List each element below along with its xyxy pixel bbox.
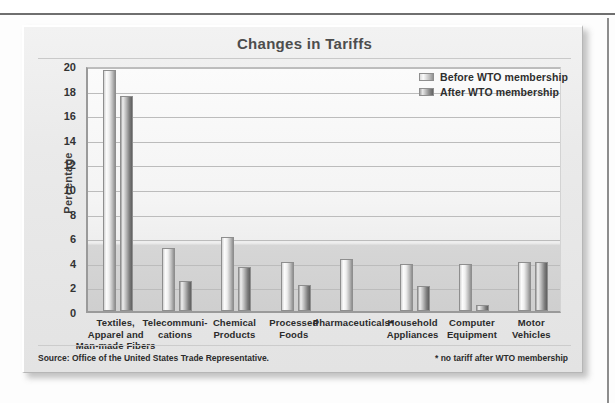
- y-tick-14: 14: [64, 135, 76, 146]
- y-tick-10: 10: [64, 185, 76, 196]
- bar-before: [162, 248, 175, 311]
- top-white-band: [0, 0, 615, 13]
- y-tick-6: 6: [70, 234, 76, 245]
- bar-group: [147, 68, 206, 311]
- bar-before: [459, 264, 472, 311]
- y-tick-18: 18: [64, 86, 76, 97]
- y-axis-tick-labels: 20181614121086420: [24, 67, 82, 313]
- bar-before: [518, 262, 531, 311]
- bar-before: [281, 262, 294, 311]
- right-divider-rule: [607, 18, 609, 403]
- bar-group: [444, 68, 503, 311]
- before-swatch-icon: [419, 73, 434, 81]
- y-tick-12: 12: [64, 160, 76, 171]
- bar-after: [120, 96, 133, 311]
- y-tick-4: 4: [70, 258, 76, 269]
- title-divider: [38, 58, 571, 59]
- x-label-7: MotorVehicles: [485, 317, 578, 340]
- legend-label-before: Before WTO membership: [440, 71, 568, 83]
- y-tick-16: 16: [64, 111, 76, 122]
- bar-series-container: [88, 68, 560, 311]
- bar-after: [179, 281, 192, 311]
- after-swatch-icon: [419, 88, 434, 96]
- chart-panel: Changes in Tariffs Percentage 2018161412…: [22, 25, 583, 373]
- legend-label-after: After WTO membership: [440, 86, 559, 98]
- bar-group: [326, 68, 385, 311]
- legend-item-after: After WTO membership: [419, 86, 568, 98]
- figure-page: Changes in Tariffs Percentage 2018161412…: [0, 0, 615, 403]
- plot-area: [86, 67, 561, 313]
- legend-item-before: Before WTO membership: [419, 71, 568, 83]
- bar-before: [221, 237, 234, 311]
- bar-after: [298, 285, 311, 311]
- chart-legend: Before WTO membership After WTO membersh…: [419, 71, 568, 101]
- footer-divider: [38, 345, 571, 346]
- bar-after: [238, 267, 251, 311]
- top-divider-rule: [0, 13, 615, 15]
- bar-before: [400, 264, 413, 311]
- y-tick-8: 8: [70, 209, 76, 220]
- y-tick-20: 20: [64, 62, 76, 73]
- bar-group: [207, 68, 266, 311]
- bar-group: [88, 68, 147, 311]
- bar-before: [340, 259, 353, 311]
- bar-after: [476, 305, 489, 311]
- bar-after: [535, 262, 548, 311]
- bar-group: [266, 68, 325, 311]
- chart-title: Changes in Tariffs: [24, 35, 585, 52]
- asterisk-footnote: * no tariff after WTO membership: [435, 353, 568, 363]
- bar-before: [103, 70, 116, 311]
- source-note: Source: Office of the United States Trad…: [38, 353, 269, 363]
- bar-group: [385, 68, 444, 311]
- y-tick-2: 2: [70, 283, 76, 294]
- bar-group: [504, 68, 563, 311]
- bar-after: [417, 286, 430, 311]
